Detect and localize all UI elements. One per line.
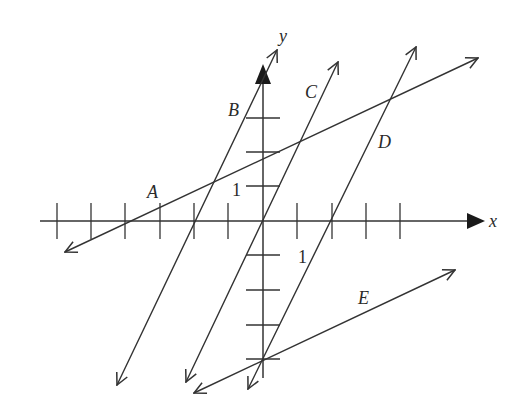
line-d-label: D [377, 132, 391, 152]
y-axis-label: y [277, 26, 287, 46]
line-a [65, 58, 478, 252]
x-unit-label: 1 [298, 247, 307, 267]
line-c-label: C [305, 82, 318, 102]
line-e [194, 270, 455, 393]
line-a-label: A [146, 182, 159, 202]
coordinate-plane: x y 1 1 A B C D E [0, 0, 522, 418]
x-axis-arrow-icon [467, 213, 485, 229]
line-d [248, 47, 416, 389]
y-unit-label: 1 [232, 180, 241, 200]
line-b [117, 50, 277, 385]
line-e-label: E [357, 288, 369, 308]
x-axis-label: x [488, 211, 497, 231]
line-b-label: B [228, 100, 239, 120]
line-c [186, 62, 338, 382]
